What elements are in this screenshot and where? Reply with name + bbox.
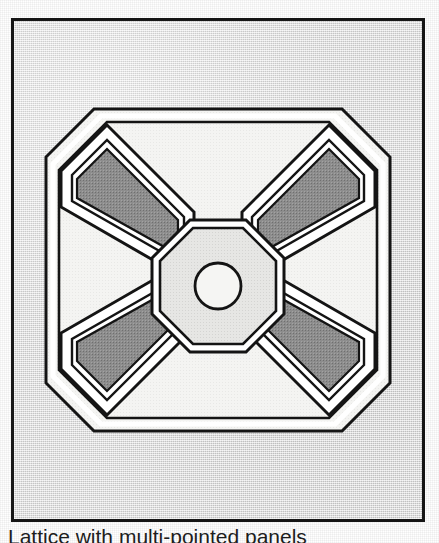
figure-caption: Lattice with multi-pointed panels [8, 526, 433, 543]
center-circle [195, 263, 241, 309]
figure-page: Lattice with multi-pointed panels [0, 0, 439, 543]
lattice-diagram [14, 21, 422, 519]
illustration-plate [11, 18, 425, 522]
